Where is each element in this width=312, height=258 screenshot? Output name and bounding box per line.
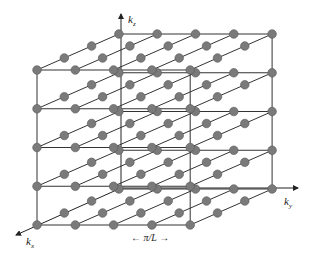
lattice-node xyxy=(241,197,250,206)
lattice-node xyxy=(137,170,146,179)
lattice-node xyxy=(268,107,277,116)
kx-line xyxy=(152,150,234,186)
kz-label-subscript: z xyxy=(133,20,136,28)
lattice-node xyxy=(175,93,184,102)
lattice-node xyxy=(98,209,107,218)
kx-line xyxy=(190,34,272,70)
lattice-node xyxy=(115,30,124,39)
lattice-node xyxy=(164,158,173,167)
lattice-node xyxy=(126,119,135,128)
lattice-node xyxy=(33,221,42,230)
ky-label-subscript: y xyxy=(289,202,292,210)
lattice-node xyxy=(87,197,96,206)
lattice-node xyxy=(175,131,184,140)
lattice-node xyxy=(126,197,135,206)
lattice-node xyxy=(153,30,162,39)
lattice-node xyxy=(109,66,118,75)
lattice-spacing-label: ← π/L → xyxy=(131,232,169,243)
kx-line xyxy=(190,112,272,148)
kz-axis-label: kz xyxy=(128,14,136,28)
lattice-node xyxy=(148,105,157,114)
lattice-node xyxy=(186,221,195,230)
lattice-node xyxy=(175,209,184,218)
lattice-node xyxy=(33,105,42,114)
lattice-node xyxy=(60,170,69,179)
lattice-node xyxy=(148,66,157,75)
lattice-node xyxy=(213,131,222,140)
lattice-node xyxy=(60,54,69,63)
kx-axis-label: kx xyxy=(26,236,34,250)
lattice-node xyxy=(186,143,195,152)
lattice-lines xyxy=(37,34,272,225)
kx-line xyxy=(114,34,196,70)
lattice-node xyxy=(186,66,195,75)
lattice-node xyxy=(164,197,173,206)
kx-line xyxy=(152,189,234,225)
kx-line xyxy=(37,34,119,70)
lattice-node xyxy=(186,105,195,114)
lattice-node xyxy=(148,221,157,230)
lattice-node xyxy=(230,146,239,155)
lattice-node xyxy=(213,170,222,179)
lattice-node xyxy=(87,158,96,167)
lattice-node xyxy=(164,42,173,51)
kx-line xyxy=(75,150,157,186)
kx-line xyxy=(190,150,272,186)
lattice-node xyxy=(98,93,107,102)
lattice-node xyxy=(71,105,80,114)
lattice-node xyxy=(126,81,135,90)
lattice-node xyxy=(87,81,96,90)
lattice-node xyxy=(33,66,42,75)
lattice-node xyxy=(33,182,42,191)
kx-line xyxy=(75,189,157,225)
lattice-node xyxy=(186,182,195,191)
lattice-node xyxy=(98,54,107,63)
k-space-lattice-diagram xyxy=(0,0,312,258)
lattice-node xyxy=(137,93,146,102)
kx-line xyxy=(114,189,196,225)
kx-line xyxy=(37,150,119,186)
lattice-node xyxy=(175,170,184,179)
lattice-node xyxy=(109,221,118,230)
lattice-node xyxy=(268,185,277,194)
ky-axis-label: ky xyxy=(284,196,292,210)
lattice-node xyxy=(175,54,184,63)
lattice-node xyxy=(241,81,250,90)
lattice-node xyxy=(148,182,157,191)
lattice-node xyxy=(60,131,69,140)
lattice-node xyxy=(164,119,173,128)
kx-line xyxy=(37,73,119,109)
kx-line xyxy=(190,189,272,225)
lattice-node xyxy=(191,30,200,39)
lattice-node xyxy=(241,158,250,167)
kx-line xyxy=(37,112,119,148)
kx-line xyxy=(114,112,196,148)
kx-line xyxy=(114,73,196,109)
kx-line xyxy=(114,150,196,186)
lattice-node xyxy=(87,42,96,51)
kx-line xyxy=(152,73,234,109)
lattice-node xyxy=(109,143,118,152)
lattice-node xyxy=(230,185,239,194)
lattice-node xyxy=(202,158,211,167)
kx-line xyxy=(75,73,157,109)
kx-line xyxy=(190,73,272,109)
lattice-node xyxy=(60,209,69,218)
lattice-node xyxy=(164,81,173,90)
lattice-node xyxy=(71,182,80,191)
kx-line xyxy=(75,112,157,148)
lattice-node xyxy=(71,143,80,152)
lattice-node xyxy=(268,146,277,155)
lattice-node xyxy=(202,42,211,51)
lattice-node xyxy=(109,105,118,114)
kx-label-subscript: x xyxy=(31,242,34,250)
lattice-node xyxy=(71,221,80,230)
lattice-node xyxy=(230,69,239,78)
lattice-node xyxy=(33,143,42,152)
lattice-node xyxy=(148,143,157,152)
lattice-node xyxy=(137,209,146,218)
lattice-node xyxy=(126,158,135,167)
lattice-node xyxy=(202,197,211,206)
lattice-node xyxy=(230,30,239,39)
lattice-node xyxy=(98,170,107,179)
